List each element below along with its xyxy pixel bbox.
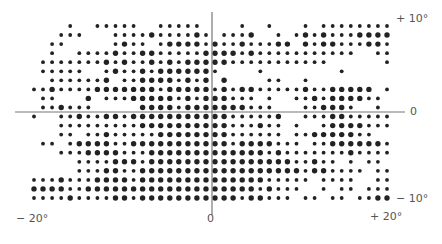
dot bbox=[159, 42, 163, 46]
dot bbox=[77, 88, 81, 92]
dot bbox=[158, 195, 163, 200]
dot bbox=[122, 87, 127, 92]
dot bbox=[105, 196, 109, 200]
dot bbox=[59, 196, 63, 200]
dot bbox=[177, 78, 181, 82]
dot bbox=[140, 168, 145, 173]
dot bbox=[149, 114, 154, 119]
dot bbox=[249, 186, 254, 191]
dot bbox=[95, 87, 100, 92]
dot bbox=[231, 133, 235, 137]
dot bbox=[212, 60, 217, 65]
dot bbox=[385, 151, 389, 155]
dot bbox=[304, 24, 308, 28]
dot bbox=[267, 159, 272, 164]
dot bbox=[167, 159, 172, 164]
dot bbox=[286, 142, 290, 146]
dot bbox=[194, 177, 199, 182]
dot bbox=[96, 115, 100, 119]
dot bbox=[313, 106, 317, 110]
dot bbox=[321, 41, 326, 46]
dot bbox=[385, 88, 389, 92]
dot bbox=[384, 32, 389, 37]
dot bbox=[304, 169, 308, 173]
dot bbox=[167, 141, 172, 146]
dot bbox=[295, 133, 299, 137]
dot bbox=[349, 33, 353, 37]
dot bbox=[339, 105, 344, 110]
dot bbox=[96, 160, 100, 164]
dot bbox=[203, 96, 208, 101]
dot bbox=[149, 60, 154, 65]
dot bbox=[258, 88, 262, 92]
dot bbox=[105, 69, 109, 73]
dot bbox=[203, 78, 208, 83]
dot bbox=[159, 33, 163, 37]
dot bbox=[203, 141, 208, 146]
x-label-right: + 20° bbox=[370, 210, 402, 223]
dot bbox=[123, 78, 127, 82]
dot bbox=[376, 106, 380, 110]
dot bbox=[212, 159, 217, 164]
dot bbox=[167, 132, 172, 137]
dot bbox=[322, 142, 326, 146]
dot bbox=[68, 60, 72, 64]
dot bbox=[339, 123, 344, 128]
dot bbox=[194, 60, 199, 65]
dot bbox=[195, 51, 199, 55]
dot bbox=[132, 33, 136, 37]
dot bbox=[212, 123, 217, 128]
dot bbox=[50, 142, 54, 146]
dot bbox=[114, 97, 118, 101]
dot bbox=[86, 150, 91, 155]
dot bbox=[194, 168, 199, 173]
dot bbox=[385, 24, 389, 28]
dot bbox=[77, 60, 81, 64]
dot bbox=[267, 141, 272, 146]
dot bbox=[366, 41, 371, 46]
dot bbox=[277, 142, 281, 146]
dot bbox=[203, 195, 208, 200]
dot bbox=[113, 51, 118, 56]
dot bbox=[77, 106, 81, 110]
dot bbox=[177, 24, 181, 28]
dot bbox=[185, 96, 190, 101]
dot bbox=[68, 69, 72, 73]
dot bbox=[158, 186, 163, 191]
dot bbox=[149, 159, 154, 164]
dot bbox=[195, 78, 199, 82]
dot bbox=[113, 87, 118, 92]
dot bbox=[295, 60, 299, 64]
dot bbox=[149, 87, 154, 92]
dot bbox=[385, 60, 389, 64]
dot bbox=[322, 24, 326, 28]
dot bbox=[304, 106, 308, 110]
dot bbox=[240, 24, 244, 28]
dot bbox=[176, 41, 181, 46]
dot bbox=[231, 142, 235, 146]
dot bbox=[176, 168, 181, 173]
dot bbox=[158, 123, 163, 128]
dot bbox=[113, 114, 118, 119]
dot bbox=[50, 78, 54, 82]
dot bbox=[194, 114, 199, 119]
dot bbox=[150, 133, 154, 137]
dot bbox=[221, 186, 226, 191]
dot bbox=[357, 123, 362, 128]
dot bbox=[375, 41, 380, 46]
dot-map: + 10° 0 − 10° − 20° 0 + 20° bbox=[0, 0, 442, 244]
dot bbox=[194, 87, 199, 92]
dot bbox=[358, 196, 362, 200]
dot bbox=[339, 141, 344, 146]
dot bbox=[295, 160, 299, 164]
dot bbox=[104, 150, 109, 155]
dot bbox=[131, 96, 136, 101]
dot bbox=[158, 177, 163, 182]
dot bbox=[194, 159, 199, 164]
dot bbox=[249, 124, 253, 128]
dot bbox=[230, 159, 235, 164]
dot bbox=[41, 196, 45, 200]
dot bbox=[313, 151, 317, 155]
dot bbox=[340, 178, 344, 182]
dot bbox=[104, 168, 109, 173]
